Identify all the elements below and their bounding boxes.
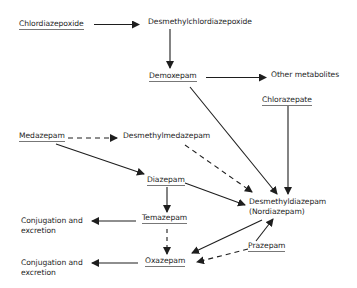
arrow-diazepam-to-desmethyldiazepam	[185, 183, 245, 205]
node-medazepam: Medazepam	[19, 131, 65, 142]
arrow-desmethylmedazepam-to-desmethyldiazepam	[185, 145, 252, 192]
arrow-prazepam-to-oxazepam	[197, 249, 248, 262]
diagram-arrows	[0, 0, 357, 288]
metabolic-pathway-diagram: Chlordiazepoxide Desmethylchlordiazepoxi…	[0, 0, 357, 288]
node-demoxepam: Demoxepam	[149, 71, 197, 82]
node-desmethylmedazepam: Desmethylmedazepam	[123, 131, 210, 140]
node-conjugation-2-line2: excretion	[21, 268, 56, 277]
node-conjugation-2-line1: Conjugation and	[21, 258, 83, 267]
node-prazepam: Prazepam	[248, 241, 285, 252]
node-temazepam: Temazepam	[142, 213, 187, 224]
node-chlorazepate: Chlorazepate	[262, 95, 312, 106]
node-conjugation-1-line1: Conjugation and	[21, 216, 83, 225]
node-oxazepam: Oxazepam	[145, 256, 185, 267]
node-diazepam: Diazepam	[147, 175, 185, 186]
node-other-metabolites: Other metabolites	[271, 70, 339, 79]
node-desmethylchlordiazepoxide: Desmethylchlordiazepoxide	[148, 17, 252, 26]
arrow-prazepam-to-desmethyldiazepam	[256, 219, 273, 241]
node-conjugation-1-line2: excretion	[21, 226, 56, 235]
node-chlordiazepoxide: Chlordiazepoxide	[19, 19, 84, 30]
arrow-medazepam-to-diazepam	[56, 144, 144, 174]
node-nordiazepam: (Nordiazepam)	[249, 207, 305, 216]
node-desmethyldiazepam: Desmethyldiazepam	[249, 197, 326, 206]
